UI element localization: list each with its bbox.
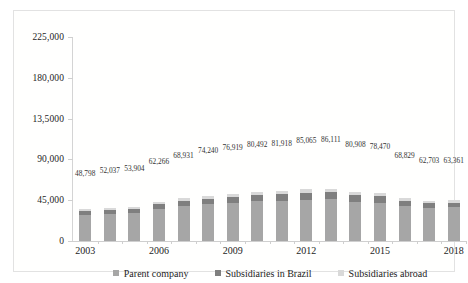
x-axis-tick xyxy=(98,241,99,244)
y-axis-tick-label: 45,000 xyxy=(37,195,64,205)
bar-column[interactable] xyxy=(349,192,361,241)
y-axis-tick-label: 90,000 xyxy=(37,154,64,164)
x-axis-tick-label: 2012 xyxy=(296,245,316,256)
x-axis-tick xyxy=(441,241,442,244)
bar-column[interactable] xyxy=(227,194,239,241)
legend-item[interactable]: Parent company xyxy=(113,268,189,279)
bar-column[interactable] xyxy=(276,191,288,241)
bar-column[interactable] xyxy=(104,208,116,241)
x-axis-tick xyxy=(343,241,344,244)
legend-item[interactable]: Subsidiaries in Brazil xyxy=(215,268,312,279)
chart-plot-frame: 045,00090,00013,5000180,000225,000 48,79… xyxy=(13,10,455,272)
y-axis-tick-label: 180,000 xyxy=(32,73,64,83)
bar-segment-subsidiaries-in-brazil xyxy=(276,194,288,201)
bar-column[interactable] xyxy=(79,209,91,241)
bar-column[interactable] xyxy=(251,192,263,241)
bar-column[interactable] xyxy=(448,200,460,241)
bar-segment-parent-company xyxy=(79,215,91,241)
legend-label: Parent company xyxy=(124,268,189,279)
bar-segment-parent-company xyxy=(325,199,337,241)
bar-segment-parent-company xyxy=(276,201,288,241)
x-axis-tick-label: 2006 xyxy=(149,245,169,256)
bar-column[interactable] xyxy=(300,189,312,241)
bar-column[interactable] xyxy=(153,202,165,241)
y-axis-tick xyxy=(68,241,73,242)
x-axis-tick-label: 2003 xyxy=(75,245,95,256)
y-axis-tick-label: 225,000 xyxy=(32,32,64,42)
legend-item[interactable]: Subsidiaries abroad xyxy=(338,268,428,279)
x-axis-tick-label: 2009 xyxy=(223,245,243,256)
bar-column[interactable] xyxy=(374,193,386,241)
bar-segment-subsidiaries-in-brazil xyxy=(251,195,263,202)
bar-segment-parent-company xyxy=(128,213,140,241)
bar-column[interactable] xyxy=(178,198,190,241)
bar-segment-parent-company xyxy=(399,206,411,241)
legend-swatch-icon xyxy=(113,270,119,276)
x-axis-tick xyxy=(122,241,123,244)
x-axis-tick xyxy=(466,241,467,244)
legend-label: Subsidiaries abroad xyxy=(349,268,428,279)
x-axis-tick xyxy=(319,241,320,244)
bar-segment-parent-company xyxy=(104,214,116,241)
x-axis-tick xyxy=(368,241,369,244)
x-axis-tick xyxy=(245,241,246,244)
x-axis-tick xyxy=(220,241,221,244)
bar-segment-parent-company xyxy=(448,207,460,241)
x-axis-tick xyxy=(417,241,418,244)
bar-segment-parent-company xyxy=(227,203,239,241)
bar-segment-parent-company xyxy=(202,204,214,241)
bar-segment-parent-company xyxy=(251,201,263,241)
legend-swatch-icon xyxy=(338,270,344,276)
bar-column[interactable] xyxy=(202,196,214,241)
x-axis-tick xyxy=(270,241,271,244)
bar-segment-parent-company xyxy=(423,208,435,241)
bar-segment-parent-company xyxy=(374,203,386,241)
bar-column[interactable] xyxy=(128,207,140,241)
x-axis-tick xyxy=(171,241,172,244)
legend-swatch-icon xyxy=(215,270,221,276)
x-axis-tick xyxy=(294,241,295,244)
bar-segment-subsidiaries-in-brazil xyxy=(300,193,312,200)
bar-segment-parent-company xyxy=(300,200,312,241)
bar-column[interactable] xyxy=(423,201,435,241)
bar-segment-parent-company xyxy=(178,206,190,241)
x-axis-tick xyxy=(147,241,148,244)
x-axis-tick xyxy=(392,241,393,244)
x-axis-tick xyxy=(196,241,197,244)
y-axis-tick-label: 13,5000 xyxy=(32,114,64,124)
x-axis-tick-label: 2018 xyxy=(444,245,464,256)
chart-legend: Parent companySubsidiaries in BrazilSubs… xyxy=(72,265,468,281)
bar-segment-parent-company xyxy=(349,202,361,241)
bar-series-group xyxy=(73,37,466,241)
bar-column[interactable] xyxy=(399,198,411,241)
x-axis-tick-label: 2015 xyxy=(370,245,390,256)
y-axis-tick-label: 0 xyxy=(59,236,64,246)
bar-segment-subsidiaries-in-brazil xyxy=(349,195,361,202)
bar-column[interactable] xyxy=(325,189,337,241)
bar-segment-subsidiaries-in-brazil xyxy=(325,192,337,199)
x-axis-labels: 200320062009201220152018 xyxy=(73,245,466,261)
legend-label: Subsidiaries in Brazil xyxy=(226,268,312,279)
y-axis-labels: 045,00090,00013,5000180,000225,000 xyxy=(14,37,70,241)
bar-segment-parent-company xyxy=(153,209,165,241)
